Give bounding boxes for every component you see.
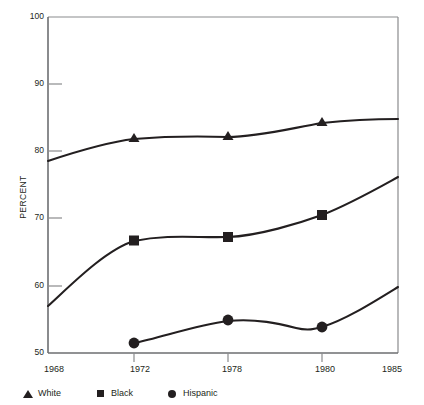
marker-hispanic-1972 (129, 338, 140, 349)
plot-area (0, 0, 424, 405)
triangle-marker-icon (22, 388, 33, 399)
marker-black-1978 (223, 232, 233, 242)
square-marker-icon (95, 388, 106, 399)
y-tick-marks (48, 84, 62, 286)
axis-frame (48, 17, 398, 353)
marker-hispanic-1980 (317, 322, 328, 333)
series-white (48, 117, 398, 161)
circle-marker-icon (167, 388, 178, 399)
series-hispanic (129, 287, 398, 348)
chart-container: PERCENT 100 90 80 70 60 50 1968 1972 197… (0, 0, 424, 405)
marker-hispanic-1978 (223, 315, 234, 326)
x-tick-marks (134, 353, 322, 362)
legend-label: White (38, 388, 61, 398)
marker-white-1972 (129, 133, 140, 142)
chart-legend: White Black Hispanic (22, 386, 252, 400)
legend-item-white: White (22, 388, 61, 399)
legend-label: Black (111, 388, 133, 398)
legend-label: Hispanic (183, 388, 218, 398)
legend-item-black: Black (95, 388, 133, 399)
marker-black-1972 (129, 236, 139, 246)
series-black (48, 177, 398, 306)
marker-white-1978 (223, 131, 234, 140)
marker-white-1980 (317, 117, 328, 126)
marker-black-1980 (317, 210, 327, 220)
legend-item-hispanic: Hispanic (167, 388, 218, 399)
